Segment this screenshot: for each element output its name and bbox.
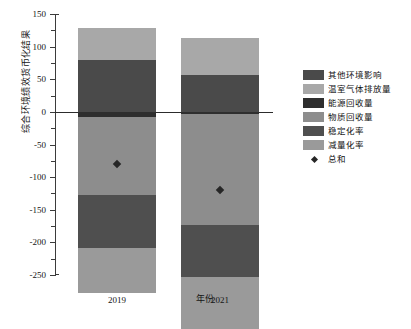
y-tick-minor [51,63,55,64]
y-tick-major: -50 [50,145,56,146]
legend-label: 其他环境影响 [328,71,382,80]
legend-label: 稳定化率 [328,127,364,136]
y-tick-label: -250 [30,271,47,280]
bar-segment[interactable] [181,114,259,225]
x-axis-title: 年份 [0,292,411,305]
bar-segment[interactable] [181,38,259,75]
y-tick-minor [51,259,55,260]
y-tick-label: -100 [30,173,47,182]
y-tick-major: -250 [50,275,56,276]
legend-swatch [303,140,324,150]
legend-item[interactable]: 稳定化率 [303,124,409,138]
bar-segment[interactable] [78,60,156,112]
bar-segment[interactable] [181,75,259,112]
y-tick-label: 50 [37,75,46,84]
bar-segment[interactable] [78,28,156,59]
bar-segment[interactable] [78,248,156,294]
chart-legend: 其他环境影响温室气体排放量能源回收量物质回收量稳定化率减量化率总和 [303,68,409,166]
legend-diamond-marker-icon [303,154,324,164]
legend-label: 减量化率 [328,141,364,150]
legend-swatch [303,126,324,136]
y-tick-minor [51,226,55,227]
bar-segment[interactable] [78,195,156,247]
y-tick-label: 150 [33,10,47,19]
y-tick-label: 100 [33,42,47,51]
legend-swatch [303,112,324,122]
y-tick-minor [51,193,55,194]
plot-area: 150100500-50-100-150-200-250 20192021 [55,14,273,275]
stacked-bar[interactable] [78,14,156,275]
legend-label: 物质回收量 [328,113,373,122]
legend-swatch [303,98,324,108]
y-tick-minor [51,128,55,129]
y-tick-minor [51,161,55,162]
legend-item[interactable]: 能源回收量 [303,96,409,110]
legend-item[interactable]: 减量化率 [303,138,409,152]
legend-item[interactable]: 其他环境影响 [303,68,409,82]
y-tick-major: 100 [50,47,56,48]
y-tick-major: 150 [50,14,56,15]
legend-label: 温室气体排放量 [328,85,391,94]
y-tick-minor [51,30,55,31]
y-tick-label: 0 [42,107,47,116]
y-tick-major: 50 [50,79,56,80]
legend-swatch [303,84,324,94]
y-tick-label: -200 [30,238,47,247]
legend-item[interactable]: 温室气体排放量 [303,82,409,96]
bar-segment[interactable] [78,117,156,195]
y-tick-major: -200 [50,242,56,243]
y-axis-title: 综合环境绩效货币化结果 [19,0,32,167]
y-tick-minor [51,96,55,97]
legend-item-total[interactable]: 总和 [303,152,409,166]
legend-item[interactable]: 物质回收量 [303,110,409,124]
legend-swatch [303,70,324,80]
bar-segment[interactable] [181,225,259,277]
legend-label: 能源回收量 [328,99,373,108]
stacked-bar[interactable] [181,14,259,275]
y-tick-label: -150 [30,205,47,214]
y-tick-major: -150 [50,210,56,211]
y-tick-label: -50 [34,140,46,149]
y-tick-major: -100 [50,177,56,178]
legend-label: 总和 [328,155,346,164]
